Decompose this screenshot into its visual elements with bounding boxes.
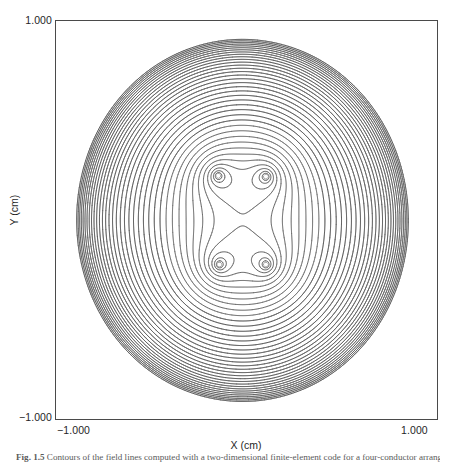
conductor-core <box>264 262 268 266</box>
contour-line <box>213 171 270 270</box>
y-axis-tick-top: 1.000 <box>25 14 52 26</box>
contour-line <box>143 105 341 336</box>
x-axis-tick-right: 1.000 <box>401 424 428 436</box>
contour-plot-svg <box>56 21 437 419</box>
contour-line <box>106 68 380 372</box>
contour-line <box>149 110 336 332</box>
contour-line <box>113 75 373 366</box>
contour-line <box>78 41 407 400</box>
y-axis-tick-bottom: −1.000 <box>19 411 52 423</box>
contour-line <box>160 120 325 321</box>
contour-line <box>208 164 277 276</box>
contour-line <box>211 168 274 273</box>
contour-line <box>129 91 356 350</box>
contour-lines-group <box>77 39 409 401</box>
contour-line <box>179 136 306 304</box>
contour-line <box>154 115 330 326</box>
conductor-core <box>217 262 221 266</box>
contour-line <box>120 83 364 359</box>
contour-line <box>215 173 269 268</box>
figure-caption: Fig. 1.5 Contours of the field lines com… <box>16 452 440 463</box>
contour-line <box>80 42 406 398</box>
figure-caption-text: Contours of the field lines computed wit… <box>47 452 440 462</box>
contour-line <box>102 65 382 376</box>
x-axis-tick-left: −1.000 <box>57 424 90 436</box>
conductor-core <box>264 175 268 179</box>
conductor-core <box>216 174 220 178</box>
figure-caption-label: Fig. 1.5 <box>16 452 45 462</box>
contour-line <box>77 39 409 401</box>
x-axis-title: X (cm) <box>0 439 454 451</box>
plot-area <box>55 20 438 420</box>
y-axis-title: Y (cm) <box>8 180 20 240</box>
contour-line <box>203 160 281 282</box>
